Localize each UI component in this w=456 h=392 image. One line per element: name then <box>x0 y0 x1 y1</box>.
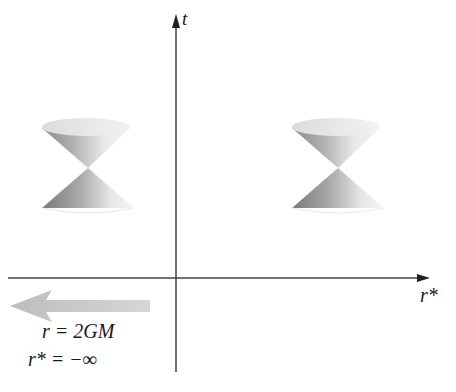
horizon-radius-label: r = 2GM <box>42 320 114 343</box>
t-axis-label: t <box>182 8 187 30</box>
tortoise-coordinate-label: r* = −∞ <box>28 348 97 371</box>
right-light-cone-icon <box>292 118 384 213</box>
horizon-arrow-icon <box>10 290 150 322</box>
left-light-cone-icon <box>42 118 134 213</box>
r-star-axis-label: r* <box>420 284 438 307</box>
t-axis <box>172 14 180 372</box>
r-star-axis-arrowhead-icon <box>417 274 430 282</box>
r-star-axis <box>8 274 430 282</box>
t-axis-arrowhead-icon <box>172 14 180 28</box>
